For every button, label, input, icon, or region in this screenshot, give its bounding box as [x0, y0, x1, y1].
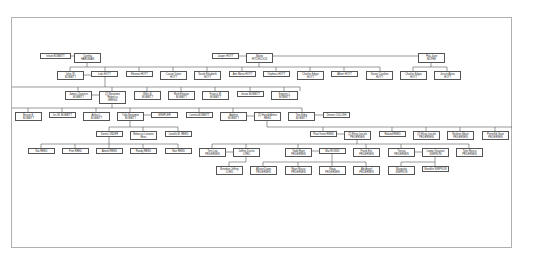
person-name-line2: PEDERSEN: [359, 171, 373, 174]
person-name-line1: Lola HOYT: [98, 73, 111, 76]
person-name-line2: BOBBITT: [176, 96, 187, 99]
person-name-line2: HOYT: [307, 76, 314, 79]
person-node: Loretta BOBBITT: [186, 112, 213, 118]
person-node: Charles EdgarHOYT: [400, 71, 427, 80]
person-node: Mia ROSSO: [319, 148, 346, 154]
person-node: Albert HOYT: [331, 71, 358, 77]
person-name-line1: Lovelle M. REED: [169, 133, 189, 136]
person-name-line2: BOBBITT: [91, 117, 102, 120]
person-name-line2: HOYT: [410, 76, 417, 79]
person-node: Derek LINDER: [96, 131, 123, 137]
person-name-line2: SIMPSON: [396, 171, 408, 174]
person-node: Ann Maria HOYT: [229, 71, 256, 77]
person-name-line2: REED: [264, 117, 271, 120]
person-node: Toni EdnaBOBBITT: [288, 112, 315, 121]
person-name-line1: Loretta BOBBITT: [190, 114, 210, 117]
person-name-line2: HARDMAN: [81, 58, 94, 61]
person-node: John W.BOBBITT: [57, 71, 84, 80]
person-name-line2: PEDERSEN: [256, 171, 270, 174]
person-node: Francis M.BOBBITT: [202, 91, 229, 100]
person-node: (2) Elroy LincolnPEDERSEN: [413, 131, 440, 140]
person-node: Roland REED: [379, 131, 406, 137]
person-name-line2: BOBBITT: [279, 96, 290, 99]
person-name-line1: Roland REED: [384, 133, 400, 136]
person-node: MarquittaSIMPSON: [388, 166, 415, 175]
person-node: Lamar GraysonSIMPSON: [422, 148, 449, 157]
person-node: Allison DawnPEDERSEN: [250, 166, 277, 175]
person-name-line1: Pearl Irene REED: [313, 133, 334, 136]
person-name-line1: Infant BOBBITT: [46, 55, 64, 58]
person-node: Jeffrey DustinLORD: [233, 148, 260, 157]
person-node: Tyler RascoPEDERSEN: [456, 148, 483, 157]
person-name-line1: Derek LINDER: [101, 133, 118, 136]
person-node: Nia REED: [28, 148, 55, 154]
person-node: Jessie BOBBITT: [237, 91, 264, 97]
person-node: Ruth EleanorBOBBITT: [168, 91, 195, 100]
person-node: Cassie DovieHOYT: [160, 71, 187, 80]
person-node: Bessie E.BOBBITT: [15, 112, 42, 121]
person-node: Nerlene MariePEDERSEN: [447, 131, 474, 140]
person-node: Tulla BenjaminBOBBITT: [117, 112, 144, 121]
person-name-line1: Orpheus HOYT: [268, 73, 286, 76]
person-node: Pernelldi SeanPEDERSEN: [482, 131, 509, 140]
person-name-line2: PEDERSEN: [419, 136, 433, 139]
person-name-line2: BOBBITT: [296, 117, 307, 120]
person-node: (2) BenjaminRebeccaGREGG: [99, 91, 126, 104]
person-name-line1: Jessie BOBBITT: [241, 93, 260, 96]
person-node: TeresaPEDERSEN: [388, 148, 415, 157]
person-node: Jessie AlviraHOYT: [434, 71, 461, 80]
person-node: Brooklin SIMPSON: [422, 166, 449, 172]
person-node: AdalineBOBBITT: [220, 112, 247, 121]
person-node: Rebecca LorraineRees: [130, 131, 157, 140]
person-name-line2: BOBBITT: [228, 117, 239, 120]
person-name-line2: BOBBITT: [210, 96, 221, 99]
person-node: Lola HOYT: [91, 71, 118, 77]
person-node: Sarah ElizabethHOYT: [194, 71, 221, 80]
person-name-line2: HOYT: [170, 76, 177, 79]
person-node: (2) Harold ArthurREED: [254, 112, 281, 121]
person-name-line2: HITCHCOCK: [252, 58, 267, 61]
person-name-line2: SIMPSON: [430, 153, 442, 156]
person-name-line2: BOBBITT: [23, 117, 34, 120]
person-node: Jasper HOYT: [212, 53, 239, 59]
person-name-line2: BOBBITT: [125, 117, 136, 120]
person-node: Lovelle M. REED: [165, 131, 192, 137]
person-node: Randy REED: [130, 148, 157, 154]
person-node: Abrahl REED: [96, 148, 123, 154]
person-node: Orpheus HOYT: [263, 71, 290, 77]
person-node: Frank EricPEDERSEN: [353, 148, 380, 157]
person-node: Arthur L.BOBBITT: [83, 112, 110, 121]
person-name-line1: Ann Maria HOYT: [233, 73, 253, 76]
person-name-line2: PEDERSEN: [359, 153, 373, 156]
person-name-line2: Rees: [140, 136, 146, 139]
person-name-line2: PEDERSEN: [453, 136, 467, 139]
person-name-line2: PEDERSEN: [488, 136, 502, 139]
person-node: Eleanor HOYT: [126, 71, 153, 77]
person-name-line1: Brooklin SIMPSON: [424, 168, 446, 171]
person-node: James ClarenceBOBBITT: [65, 91, 92, 100]
person-node: Charles EdgarHOYT: [297, 71, 324, 80]
person-node: MattieHITCHCOCK: [246, 53, 273, 63]
person-node: Iris W. BOBBITT: [49, 112, 76, 118]
person-name-line2: PEDERSEN: [350, 136, 364, 139]
person-name-line2: HOYT: [444, 76, 451, 79]
person-node: Brendan JeffreyLORD: [216, 166, 243, 175]
person-node: MINIPLER: [151, 112, 178, 118]
person-name-line2: PEDERSEN: [394, 153, 408, 156]
person-node: Pilia JaneMCFEE: [418, 53, 445, 63]
person-node: Pearl Irene REED: [310, 131, 337, 137]
person-name-line2: BOBBITT: [73, 96, 84, 99]
person-name-line1: Jasper HOYT: [218, 55, 234, 58]
person-name-line1: Dennis CULLISH: [327, 114, 347, 117]
person-node: Eugene J.BOBBITT: [271, 91, 298, 100]
person-node: (2) Elroy LincolnPEDERSEN: [344, 131, 371, 140]
person-name-line2: HOYT: [376, 76, 383, 79]
person-name-line1: Abrahl REED: [102, 150, 117, 153]
person-node: KhaiaPEDERSEN: [319, 166, 346, 175]
person-node: Willis B.BOBBITT: [134, 91, 161, 100]
person-name-line1: Randy REED: [136, 150, 151, 153]
person-node: Todd RyanPEDERSEN: [285, 148, 312, 157]
person-name-line1: Mia ROSSO: [325, 150, 339, 153]
person-name-line1: Nia REED: [36, 150, 48, 153]
person-name-line1: Eleanor HOYT: [131, 73, 148, 76]
